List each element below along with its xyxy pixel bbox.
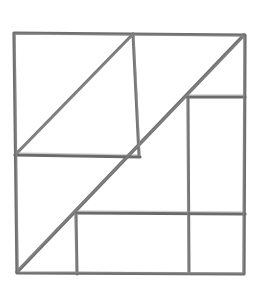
figure-background <box>0 0 261 286</box>
lower-horizontal-divider <box>76 213 245 214</box>
geometric-figure: Hand-drawn subdivided square <box>0 0 261 286</box>
